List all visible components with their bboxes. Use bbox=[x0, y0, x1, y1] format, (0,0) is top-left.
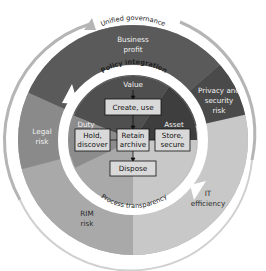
privacy-label-line2: security bbox=[205, 96, 234, 105]
business-profit-label-line2: profit bbox=[123, 45, 142, 54]
it-efficiency-label-line1: IT bbox=[205, 189, 212, 198]
store-secure-box: Store, secure bbox=[155, 129, 190, 151]
duty-label: Duty bbox=[77, 120, 95, 129]
records-governance-diagram: Unified governance Policy integration Pr… bbox=[0, 0, 266, 271]
svg-text:Retain: Retain bbox=[122, 131, 145, 140]
privacy-label-line3: risk bbox=[213, 106, 227, 115]
dispose-box: Dispose bbox=[110, 161, 156, 176]
asset-label: Asset bbox=[164, 120, 184, 129]
retain-archive-box: Retain archive bbox=[117, 129, 149, 151]
svg-text:discover: discover bbox=[77, 140, 107, 149]
legal-risk-label-line2: risk bbox=[36, 137, 50, 146]
svg-text:Store,: Store, bbox=[162, 131, 183, 140]
create-use-box: Create, use bbox=[105, 99, 161, 115]
svg-text:secure: secure bbox=[161, 140, 185, 149]
rim-risk-label-line1: RIM bbox=[80, 209, 93, 218]
value-label: Value bbox=[123, 80, 143, 89]
business-profit-label-line1: Business bbox=[117, 35, 149, 44]
svg-text:Hold,: Hold, bbox=[83, 131, 102, 140]
it-efficiency-label-line2: efficiency bbox=[191, 199, 226, 208]
svg-text:archive: archive bbox=[120, 140, 147, 149]
legal-risk-label-line1: Legal bbox=[32, 127, 51, 136]
svg-text:Create, use: Create, use bbox=[112, 103, 154, 112]
privacy-label-line1: Privacy and bbox=[198, 86, 240, 95]
hold-discover-box: Hold, discover bbox=[75, 129, 110, 151]
rim-risk-label-line2: risk bbox=[81, 219, 95, 228]
svg-text:Dispose: Dispose bbox=[119, 164, 148, 173]
